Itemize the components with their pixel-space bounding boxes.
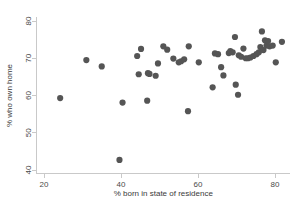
x-tick-label: 80	[271, 180, 280, 189]
data-point	[138, 46, 144, 52]
data-point	[164, 47, 170, 53]
data-point	[265, 38, 271, 44]
y-tick-label: 40	[24, 165, 33, 174]
data-point	[215, 51, 221, 57]
x-tick-label: 40	[117, 180, 126, 189]
data-point	[185, 108, 191, 114]
data-point	[196, 59, 202, 65]
y-axis-title: % who own home	[5, 63, 14, 127]
data-point	[99, 63, 105, 69]
data-point	[116, 157, 122, 163]
data-point	[119, 99, 125, 105]
x-tick-label: 20	[40, 180, 49, 189]
data-points	[57, 28, 285, 163]
data-point	[270, 42, 276, 48]
data-point	[230, 49, 236, 55]
x-axis-title: % born in state of residence	[114, 189, 214, 198]
y-tick-label: 60	[24, 91, 33, 100]
data-point	[155, 60, 161, 66]
data-point	[153, 73, 159, 79]
x-tick-label: 60	[194, 180, 203, 189]
data-point	[279, 39, 285, 45]
data-point	[235, 92, 241, 98]
y-tick-label: 80	[24, 16, 33, 25]
data-point	[57, 95, 63, 101]
data-point	[144, 98, 150, 104]
y-tick-label: 70	[24, 53, 33, 62]
data-point	[218, 64, 224, 70]
y-axis: 4050607080	[24, 16, 36, 174]
data-point	[232, 34, 238, 40]
data-point	[233, 82, 239, 88]
x-axis: 20406080	[36, 174, 290, 189]
data-point	[83, 57, 89, 63]
data-point	[186, 43, 192, 49]
data-point	[136, 71, 142, 77]
data-point	[273, 59, 279, 65]
data-point	[220, 72, 226, 78]
data-point	[240, 45, 246, 51]
data-point	[134, 53, 140, 59]
y-tick-label: 50	[24, 128, 33, 137]
data-point	[210, 84, 216, 90]
chart-canvas: 4050607080 20406080 % born in state of r…	[0, 0, 294, 200]
data-point	[170, 56, 176, 62]
scatter-plot-figure: 4050607080 20406080 % born in state of r…	[0, 0, 294, 200]
data-point	[146, 71, 152, 77]
data-point	[259, 28, 265, 34]
data-point	[181, 56, 187, 62]
